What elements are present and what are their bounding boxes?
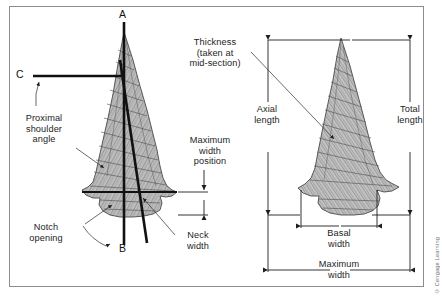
thickness-label: Thickness (taken at mid-section) [175,37,255,69]
total-length-label: Total length [382,104,438,125]
copyright-credit: © Cengage Learning [434,237,440,294]
axis-label-a: A [119,8,126,20]
basal-width-label: Basal width [311,228,367,249]
axial-length-label: Axial length [239,104,295,125]
proximal-shoulder-angle-label: Proximal shoulder angle [6,113,82,145]
maximum-width-label: Maximum width [300,259,378,280]
axis-label-b: B [119,242,126,254]
axis-label-c: C [16,68,24,80]
projectile-point-measurement-figure: A B C Proximal shoulder angle Notch open… [0,0,442,302]
neck-width-label: Neck width [170,230,226,251]
maximum-width-position-label: Maximum width position [176,135,244,167]
notch-opening-label: Notch opening [12,222,80,243]
